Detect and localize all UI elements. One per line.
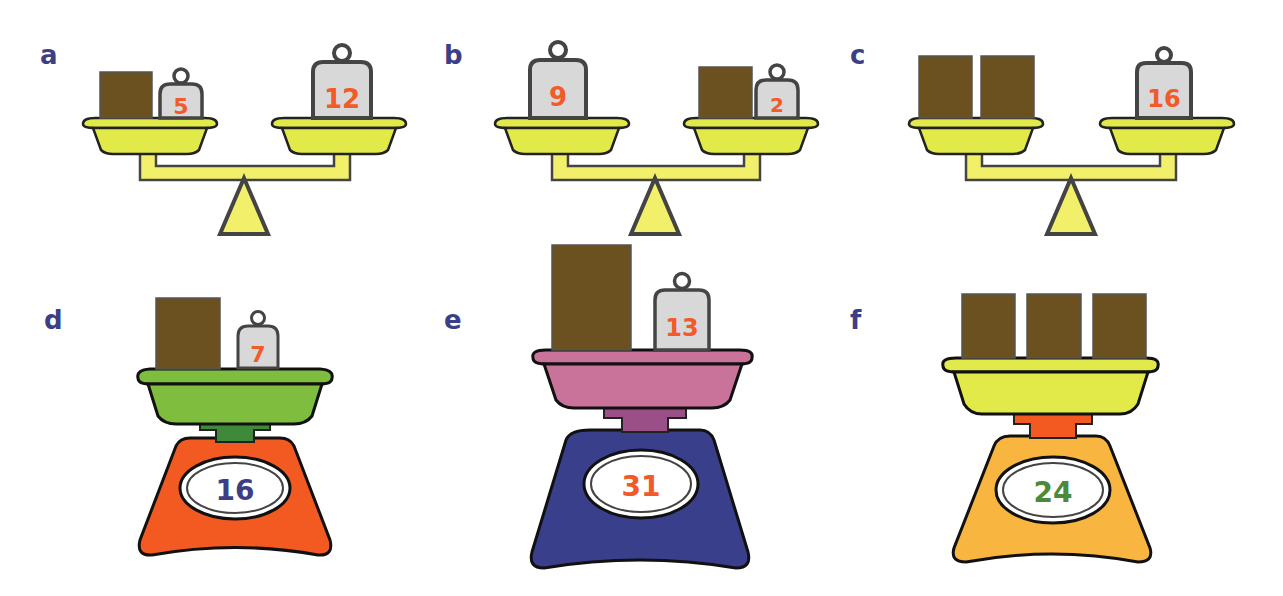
balance-scale-c: 16 <box>909 48 1234 234</box>
balance-scale-b: 9 2 <box>495 42 818 234</box>
unknown-box <box>919 56 972 118</box>
svg-text:5: 5 <box>173 94 188 119</box>
weight-7: 7 <box>238 312 278 369</box>
svg-text:9: 9 <box>549 82 567 112</box>
fulcrum-icon <box>631 178 679 234</box>
scales-diagram: 5 12 9 2 <box>0 0 1283 596</box>
weight-16: 16 <box>1137 48 1191 118</box>
kitchen-scale-f: 24 <box>943 294 1158 562</box>
fulcrum-icon <box>1047 178 1095 234</box>
svg-text:16: 16 <box>1147 85 1180 113</box>
svg-text:12: 12 <box>324 84 360 114</box>
scale-reading: 16 <box>216 474 255 507</box>
weight-2: 2 <box>756 65 798 118</box>
unknown-box <box>962 294 1015 358</box>
svg-text:13: 13 <box>665 314 698 342</box>
unknown-box <box>1027 294 1081 358</box>
fulcrum-icon <box>220 178 268 234</box>
balance-scale-a: 5 12 <box>83 45 406 234</box>
svg-text:2: 2 <box>770 93 784 117</box>
svg-text:7: 7 <box>250 342 265 367</box>
scale-reading: 31 <box>622 470 661 503</box>
kitchen-scale-d: 16 7 <box>138 298 333 555</box>
weight-13: 13 <box>655 274 709 351</box>
unknown-box <box>100 72 152 118</box>
scale-reading: 24 <box>1034 476 1073 509</box>
weight-5: 5 <box>160 69 202 119</box>
unknown-box <box>699 67 752 118</box>
unknown-box <box>156 298 220 369</box>
unknown-box <box>981 56 1034 118</box>
weight-9: 9 <box>530 42 586 118</box>
weight-12: 12 <box>313 45 371 118</box>
unknown-box <box>552 245 631 350</box>
unknown-box <box>1093 294 1146 358</box>
kitchen-scale-e: 31 13 <box>531 245 752 568</box>
